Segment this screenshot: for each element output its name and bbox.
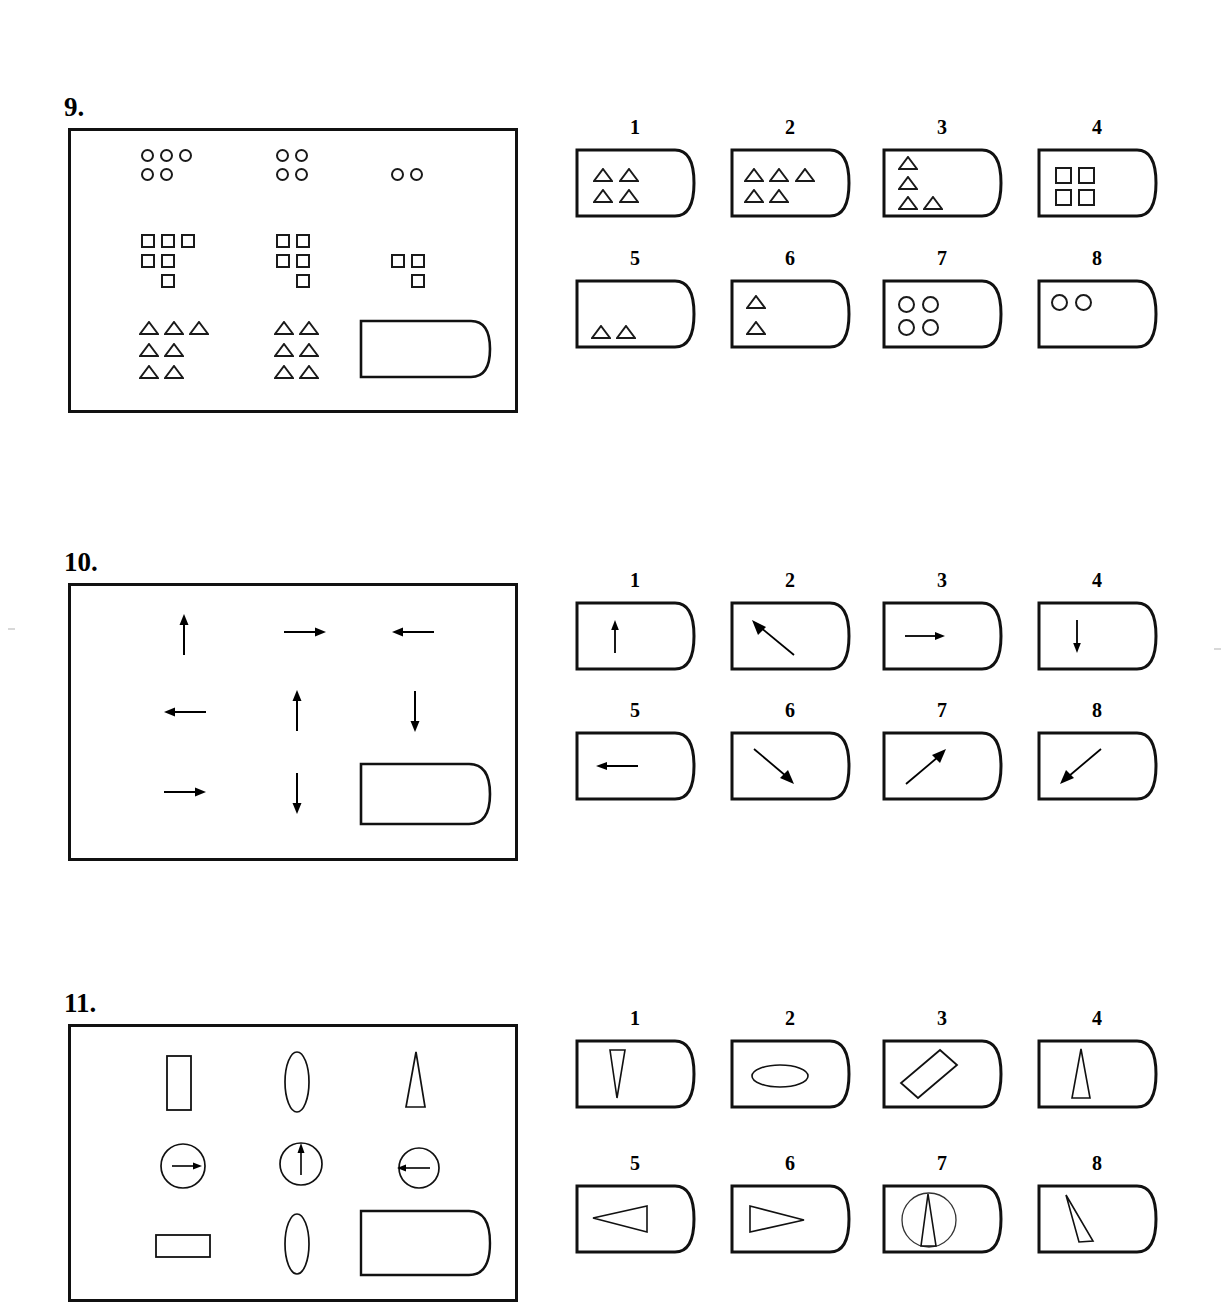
option-label: 5 xyxy=(575,247,695,270)
option-label: 3 xyxy=(882,569,1002,592)
circle-shape xyxy=(898,296,915,313)
circle-shape xyxy=(295,168,308,181)
arrow-right-icon xyxy=(163,784,207,800)
triangle-shape xyxy=(795,168,815,182)
ellipse-horizontal-shape xyxy=(750,1063,810,1089)
arrow-down-icon xyxy=(1069,619,1085,653)
square-shape xyxy=(1055,167,1072,184)
arrow-up-icon xyxy=(607,620,623,654)
triangle-shape xyxy=(164,343,184,357)
circle-shape xyxy=(1051,294,1068,311)
option-label: 3 xyxy=(882,116,1002,139)
square-shape xyxy=(276,254,290,268)
triangle-shape xyxy=(898,176,918,190)
circle-arrow-up-shape xyxy=(279,1139,323,1187)
triangle-shape xyxy=(274,321,294,335)
arrow-left-icon xyxy=(163,704,207,720)
circle-shape xyxy=(141,149,154,162)
answer-tag-placeholder[interactable] xyxy=(359,1209,493,1279)
circle-shape xyxy=(898,319,915,336)
triangle-shape xyxy=(164,321,184,335)
triangle-shape xyxy=(619,168,639,182)
triangle-shape xyxy=(898,196,918,210)
circle-shape xyxy=(1075,294,1092,311)
scan-artifact xyxy=(8,628,15,630)
triangle-shape xyxy=(274,343,294,357)
triangle-shape xyxy=(769,189,789,203)
triangle-shape xyxy=(274,365,294,379)
option-label: 4 xyxy=(1037,116,1157,139)
triangle-thin-down-shape xyxy=(607,1049,629,1099)
option-label: 6 xyxy=(730,1152,850,1175)
arrow-down-icon xyxy=(289,772,305,814)
scan-artifact xyxy=(1214,648,1221,650)
answer-tag-placeholder[interactable] xyxy=(359,762,493,826)
triangle-shape xyxy=(616,325,636,339)
rect-horizontal-shape xyxy=(155,1234,211,1258)
square-shape xyxy=(161,274,175,288)
arrow-right-icon xyxy=(283,624,327,640)
square-shape xyxy=(296,254,310,268)
triangle-shape xyxy=(299,365,319,379)
triangle-shape xyxy=(746,295,766,309)
square-shape xyxy=(296,234,310,248)
option-label: 2 xyxy=(730,116,850,139)
triangle-shape xyxy=(619,189,639,203)
option-label: 7 xyxy=(882,1152,1002,1175)
square-shape xyxy=(411,254,425,268)
arrow-up-icon xyxy=(289,690,305,732)
triangle-shape xyxy=(591,325,611,339)
circle-shape xyxy=(141,168,154,181)
triangle-shape xyxy=(299,343,319,357)
circle-shape xyxy=(179,149,192,162)
option-label: 7 xyxy=(882,247,1002,270)
arrow-down-right-icon xyxy=(752,748,798,786)
triangle-shape xyxy=(164,365,184,379)
triangle-tall-up-shape xyxy=(401,1051,427,1109)
circle-shape xyxy=(295,149,308,162)
square-shape xyxy=(1078,189,1095,206)
ellipse-vertical-shape xyxy=(283,1051,311,1113)
square-shape xyxy=(1078,167,1095,184)
arrow-left-icon xyxy=(391,624,435,640)
triangle-shape xyxy=(139,321,159,335)
square-shape xyxy=(391,254,405,268)
arrow-left-icon xyxy=(595,758,639,774)
option-label: 1 xyxy=(575,569,695,592)
circle-shape xyxy=(276,149,289,162)
arrow-up-left-icon xyxy=(750,619,796,657)
circle-shape xyxy=(276,168,289,181)
arrow-down-icon xyxy=(407,690,423,732)
triangle-pointing-right-shape xyxy=(746,1204,806,1234)
option-label: 6 xyxy=(730,247,850,270)
option-label: 8 xyxy=(1037,1152,1157,1175)
option-label: 8 xyxy=(1037,699,1157,722)
rect-diagonal-shape xyxy=(896,1047,962,1101)
square-shape xyxy=(276,234,290,248)
square-shape xyxy=(296,274,310,288)
circle-arrow-left-shape xyxy=(393,1145,441,1191)
triangle-shape xyxy=(189,321,209,335)
option-label: 8 xyxy=(1037,247,1157,270)
square-shape xyxy=(411,274,425,288)
ellipse-vertical-shape xyxy=(283,1213,311,1275)
circle-shape xyxy=(410,168,423,181)
circle-shape xyxy=(160,149,173,162)
square-shape xyxy=(181,234,195,248)
option-label: 5 xyxy=(575,1152,695,1175)
square-shape xyxy=(161,254,175,268)
triangle-pointing-left-shape xyxy=(591,1204,651,1234)
problem-11-matrix xyxy=(68,1024,518,1302)
circle-arrow-right-shape xyxy=(159,1142,207,1190)
square-shape xyxy=(1055,189,1072,206)
circle-shape xyxy=(391,168,404,181)
answer-tag-placeholder[interactable] xyxy=(359,319,493,379)
arrow-right-icon xyxy=(904,628,946,644)
square-shape xyxy=(141,234,155,248)
option-label: 2 xyxy=(730,1007,850,1030)
triangle-shape xyxy=(744,189,764,203)
triangle-shape xyxy=(299,321,319,335)
triangle-tilted-shape xyxy=(1057,1192,1107,1246)
option-label: 7 xyxy=(882,699,1002,722)
rect-vertical-shape xyxy=(166,1055,192,1111)
